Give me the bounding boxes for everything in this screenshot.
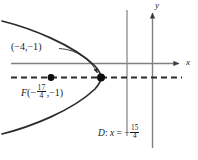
vertex-point-marker bbox=[97, 74, 105, 82]
focus-point-marker bbox=[48, 74, 55, 81]
focus-x-denominator: 4 bbox=[37, 91, 47, 100]
vertex-y-value: −1 bbox=[27, 42, 38, 52]
focus-x-sign: − bbox=[30, 88, 36, 98]
directrix-colon: : bbox=[105, 129, 108, 139]
vertex-x-value: −4 bbox=[14, 42, 25, 52]
directrix-sign: − bbox=[124, 129, 129, 139]
vertex-coordinate-label: (−4, −1) bbox=[11, 41, 41, 52]
vertex-close-paren: ) bbox=[38, 42, 41, 52]
directrix-numerator: 15 bbox=[130, 125, 139, 133]
focus-coordinate-label: F(− 17 4 , −1) bbox=[21, 85, 63, 102]
y-axis-label: y bbox=[155, 1, 159, 10]
focus-close-paren: ) bbox=[60, 88, 63, 98]
parabola-figure: (−4, −1) F(− 17 4 , −1) D: x = − 15 4 y … bbox=[0, 0, 198, 160]
directrix-variable: x bbox=[110, 129, 114, 139]
focus-x-fraction: 17 4 bbox=[37, 84, 47, 101]
directrix-equation-label: D: x = − 15 4 bbox=[98, 126, 140, 142]
focus-x-numerator: 17 bbox=[37, 84, 47, 92]
directrix-equals: = bbox=[116, 129, 121, 139]
focus-y-value: −1 bbox=[49, 88, 60, 98]
directrix-denominator: 4 bbox=[130, 132, 139, 141]
directrix-fraction: 15 4 bbox=[130, 125, 139, 141]
directrix-name: D bbox=[98, 129, 105, 139]
x-axis-label: x bbox=[186, 58, 190, 67]
